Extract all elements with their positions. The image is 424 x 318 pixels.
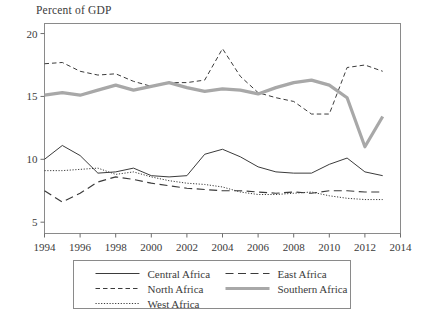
chart-figure: Percent of GDP 5101520 19941996199820002… bbox=[0, 0, 424, 318]
chart-legend: Central AfricaNorth AfricaWest AfricaEas… bbox=[74, 261, 351, 310]
series-line-southern-africa bbox=[45, 80, 383, 147]
x-tick-label: 2010 bbox=[318, 241, 341, 253]
x-tick-label: 1996 bbox=[69, 241, 92, 253]
plot-frame bbox=[45, 24, 401, 234]
legend-label-north-africa: North Africa bbox=[148, 283, 204, 295]
series-line-west-africa bbox=[45, 168, 383, 199]
y-axis-title: Percent of GDP bbox=[36, 4, 112, 16]
x-tick-label: 2006 bbox=[247, 241, 270, 253]
y-tick-label: 15 bbox=[27, 90, 39, 102]
legend-label-central-africa: Central Africa bbox=[148, 268, 211, 280]
y-tick-label: 5 bbox=[32, 216, 38, 228]
series-line-central-africa bbox=[45, 145, 383, 176]
plot-frame-group bbox=[45, 24, 401, 234]
x-tick-label: 2012 bbox=[354, 241, 376, 253]
y-tick-label: 10 bbox=[27, 153, 39, 165]
y-tick-label: 20 bbox=[27, 28, 39, 40]
legend-label-southern-africa: Southern Africa bbox=[278, 283, 348, 295]
x-tick-label: 2014 bbox=[390, 241, 413, 253]
legend-label-west-africa: West Africa bbox=[148, 298, 200, 310]
x-tick-label: 2008 bbox=[283, 241, 306, 253]
chart-svg: 5101520 19941996199820002002200420062008… bbox=[0, 0, 424, 318]
x-tick-label: 2004 bbox=[212, 241, 235, 253]
x-tick-label: 2000 bbox=[140, 241, 163, 253]
x-tick-label: 2002 bbox=[176, 241, 198, 253]
series-line-east-africa bbox=[45, 177, 383, 202]
x-tick-label: 1994 bbox=[34, 241, 57, 253]
series-line-north-africa bbox=[45, 49, 383, 114]
x-axis-ticks: 1994199619982000200220042006200820102012… bbox=[34, 234, 413, 253]
legend-label-east-africa: East Africa bbox=[278, 268, 327, 280]
series-lines-group bbox=[45, 49, 383, 202]
y-axis-ticks: 5101520 bbox=[27, 28, 45, 229]
x-tick-label: 1998 bbox=[105, 241, 128, 253]
